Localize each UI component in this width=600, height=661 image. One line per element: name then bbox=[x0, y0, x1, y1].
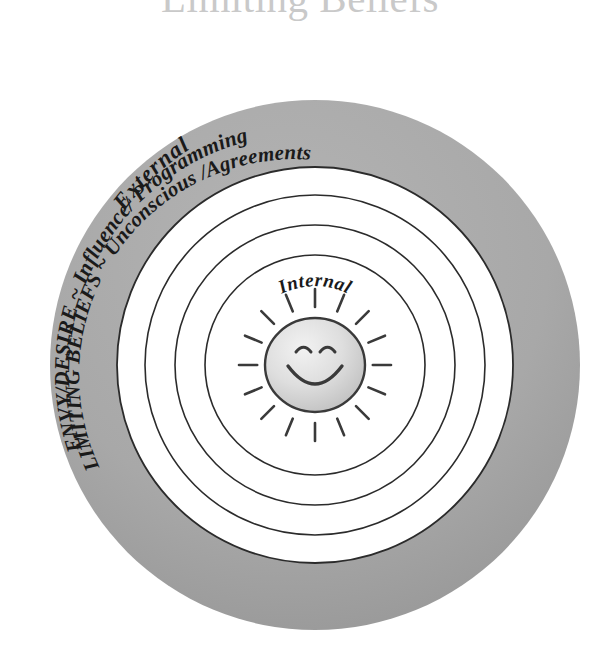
diagram-canvas: Limiting Beliefs bbox=[0, 0, 600, 661]
limiting-beliefs-diagram: External ENVY/DESIRE ~ Influence/ Progra… bbox=[0, 0, 600, 661]
smiley-face bbox=[265, 318, 365, 412]
